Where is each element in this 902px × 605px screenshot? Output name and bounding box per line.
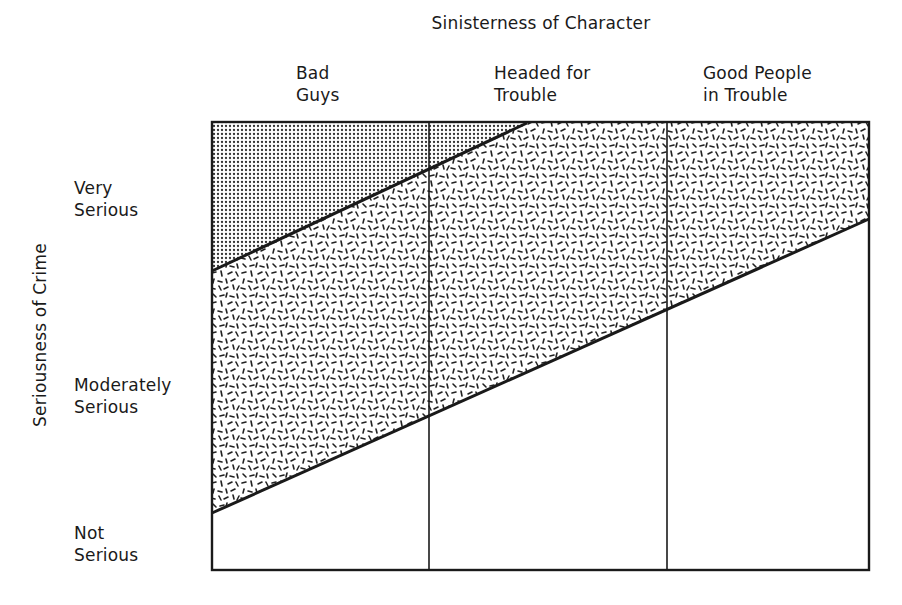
diagram-plot [0, 0, 902, 605]
